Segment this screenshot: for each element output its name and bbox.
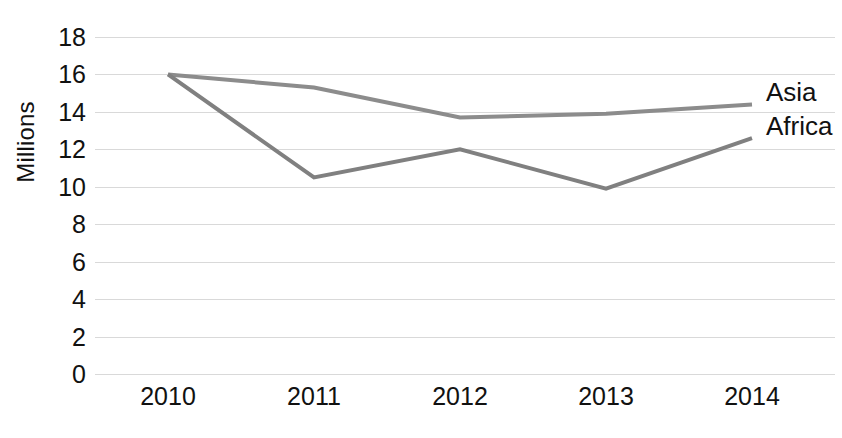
x-axis-tick-label: 2012 (400, 384, 520, 409)
series-line-africa (168, 74, 752, 188)
y-axis-tick-label: 2 (30, 324, 86, 349)
y-axis-tick-labels: 181614121086420 (28, 0, 86, 438)
series-line-asia (168, 74, 752, 117)
line-chart: Millions 181614121086420 AsiaAfrica 2010… (0, 0, 842, 438)
x-axis-tick-label: 2013 (546, 384, 666, 409)
y-axis-tick-label: 8 (30, 212, 86, 237)
series-lines (95, 0, 842, 438)
y-axis-tick-label: 6 (30, 249, 86, 274)
x-axis-tick-label: 2011 (254, 384, 374, 409)
y-axis-tick-label: 18 (30, 25, 86, 50)
y-axis-tick-label: 16 (30, 62, 86, 87)
plot-area: AsiaAfrica 20102011201220132014 (95, 0, 842, 438)
x-axis-tick-label: 2010 (108, 384, 228, 409)
y-axis-tick-label: 10 (30, 174, 86, 199)
y-axis-tick-label: 14 (30, 99, 86, 124)
series-label-africa: Africa (766, 113, 832, 139)
y-axis-tick-label: 12 (30, 137, 86, 162)
y-axis-tick-label: 4 (30, 287, 86, 312)
x-axis-tick-label: 2014 (692, 384, 812, 409)
series-label-asia: Asia (766, 79, 817, 105)
y-axis-tick-label: 0 (30, 362, 86, 387)
